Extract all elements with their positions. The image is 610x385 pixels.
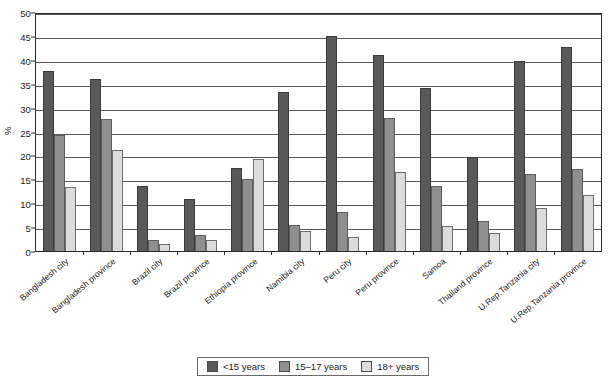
x-axis-label: Peru province [353,256,400,298]
bar [536,208,547,251]
y-tick-label-35: 35 [20,79,31,90]
bar [278,92,289,251]
bar [242,179,253,251]
bar [101,119,112,251]
bar-group [366,14,413,251]
legend: <15 years15–17 years18+ years [197,357,429,376]
bar [561,47,572,251]
legend-item: <15 years [207,361,265,372]
bar [231,168,242,251]
x-axis-label: Samoa [420,256,447,281]
bar-group [554,14,601,251]
legend-item: 18+ years [361,361,419,372]
bar-group [413,14,460,251]
bar-groups [36,14,601,251]
bar [206,240,217,251]
bar [442,226,453,251]
bar-group [507,14,554,251]
x-axis-label: Namibia city [264,256,306,294]
legend-label: 15–17 years [295,361,347,372]
bar [43,71,54,251]
legend-swatch-icon [207,361,218,372]
x-axis-labels: Bangladesh cityBangladesh provinceBrazil… [35,252,602,347]
bar-group [271,14,318,251]
bar [420,88,431,251]
legend-swatch-icon [279,361,290,372]
bar-group [224,14,271,251]
y-axis: % 05101520253035404550 [0,13,35,252]
bar [112,150,123,251]
bar [54,135,65,251]
bar-group [319,14,366,251]
legend-swatch-icon [361,361,372,372]
y-axis-title: % [2,127,13,135]
y-tick-label-15: 15 [20,175,31,186]
bar [583,195,594,251]
bar [337,212,348,251]
bar [300,231,311,251]
bar-group [36,14,83,251]
plot-area [35,13,602,252]
bar [525,174,536,251]
x-axis-label: Brazil province [162,256,212,300]
y-tick-label-20: 20 [20,151,31,162]
bar [395,172,406,251]
bar [373,55,384,251]
bar [572,169,583,251]
bar-group [177,14,224,251]
bar-group [460,14,507,251]
bar [65,187,76,251]
bar [90,79,101,251]
bar [431,186,442,251]
bar-chart: % 05101520253035404550 Bangladesh cityBa… [0,0,610,385]
x-axis-label: Brazil city [130,256,165,287]
bar [289,225,300,251]
y-tick-label-30: 30 [20,103,31,114]
bar [137,186,148,251]
legend-label: 18+ years [377,361,419,372]
bar [184,199,195,251]
y-tick-label-45: 45 [20,31,31,42]
x-axis-label: Peru city [321,256,353,285]
bar [478,221,489,251]
bar-group [83,14,130,251]
bar [326,36,337,251]
bar-group [130,14,177,251]
bar [489,233,500,251]
bar [253,159,264,251]
legend-label: <15 years [223,361,265,372]
bar [348,237,359,251]
bar [195,235,206,251]
bar [159,244,170,251]
legend-item: 15–17 years [279,361,347,372]
y-tick-label-10: 10 [20,199,31,210]
bar [384,118,395,251]
bar [467,157,478,251]
bar [148,240,159,251]
y-tick-label-25: 25 [20,127,31,138]
bar [514,61,525,251]
y-tick-label-50: 50 [20,8,31,19]
y-tick-label-40: 40 [20,55,31,66]
